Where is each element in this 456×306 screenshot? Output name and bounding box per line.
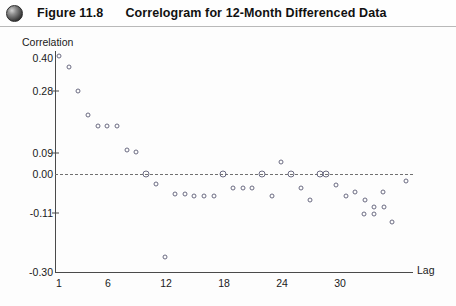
data-point [76,89,81,94]
y-tick: -0.30 [0,272,53,273]
data-point [57,54,62,59]
y-tick: 0.09 [0,153,53,154]
data-point [308,198,313,203]
data-point [343,194,348,199]
data-point [288,171,295,178]
zero-reference-line [55,174,413,175]
data-point [362,198,367,203]
data-point [279,160,284,165]
data-point [124,148,129,153]
data-point [404,179,409,184]
y-tick-label: 0.40 [33,52,53,64]
y-axis-line [55,51,56,273]
data-point [298,186,303,191]
data-point [66,65,71,70]
data-point [390,220,395,225]
data-point [381,205,386,210]
data-point [353,190,358,195]
data-point [323,171,330,178]
x-axis-title: Lag [417,264,435,276]
data-point [182,192,187,197]
y-tick-label: 0.09 [33,147,53,159]
data-point [105,124,110,129]
figure-header: Figure 11.8 Correlogram for 12-Month Dif… [0,0,456,27]
data-point [231,186,236,191]
x-tick-label: 18 [218,277,230,289]
filled-circle-icon [6,5,23,22]
x-tick-label: 6 [105,277,111,289]
figure-number: Figure 11.8 [37,6,103,20]
data-point [192,194,197,199]
data-point [362,212,367,217]
y-tick-label: 0.28 [33,85,53,97]
data-point [163,255,168,260]
data-point [372,205,377,210]
data-point [211,194,216,199]
data-point [202,194,207,199]
y-tick: 0.40 [0,58,53,59]
y-tick-label: -0.30 [29,266,53,278]
y-tick-mark [52,153,59,154]
data-point [173,192,178,197]
data-point [86,113,91,118]
data-point [220,171,227,178]
x-axis-line [55,272,413,273]
figure-container: Figure 11.8 Correlogram for 12-Month Dif… [0,0,456,306]
data-point [269,194,274,199]
figure-title: Correlogram for 12-Month Differenced Dat… [125,6,386,20]
y-tick: -0.11 [0,213,53,214]
data-point [334,183,339,188]
data-point [259,171,266,178]
data-point [95,124,100,129]
data-point [250,186,255,191]
y-tick-label: 0.00 [33,168,53,180]
data-point [240,186,245,191]
data-point [143,171,150,178]
data-point [153,182,158,187]
y-tick: 0.00 [0,174,53,175]
data-point [371,212,376,217]
correlogram-plot: Correlation Lag 0.400.280.090.00-0.11-0.… [0,27,456,306]
data-point [381,190,386,195]
data-point [115,124,120,129]
y-tick-mark [52,213,59,214]
y-tick: 0.28 [0,91,53,92]
x-tick-label: 30 [334,277,346,289]
x-tick-label: 1 [56,277,62,289]
x-tick-label: 24 [276,277,288,289]
x-tick-label: 12 [160,277,172,289]
y-tick-label: -0.11 [30,207,53,219]
data-point [134,150,139,155]
y-axis-title: Correlation [22,36,73,48]
y-tick-mark [52,91,59,92]
